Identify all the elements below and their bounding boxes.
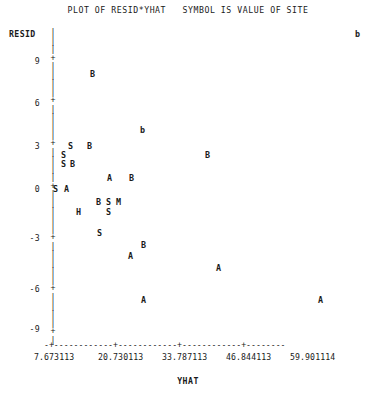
- data-point-symbol: S: [97, 229, 102, 237]
- data-point-symbol: M: [116, 198, 121, 206]
- x-axis-line: -+------------+------------+------------…: [44, 340, 362, 348]
- y-axis-label: RESID: [9, 29, 36, 39]
- x-axis-label: YHAT: [0, 376, 376, 386]
- data-point-symbol: A: [318, 296, 323, 304]
- data-point-symbol: S: [106, 208, 111, 216]
- y-axis-tick-label: 0: [14, 184, 40, 194]
- data-point-symbol: A: [107, 174, 112, 182]
- data-point-symbol: B: [70, 160, 75, 168]
- y-axis-tick-label: 3: [14, 141, 40, 151]
- sas-scatter-plot: PLOT OF RESID*YHAT SYMBOL IS VALUE OF SI…: [0, 0, 376, 396]
- y-axis-tick-label: -9: [14, 324, 40, 334]
- data-point-symbol: B: [90, 70, 95, 78]
- x-axis-tick-label: 20.730113: [98, 352, 143, 362]
- data-point-symbol: S: [106, 198, 111, 206]
- data-point-symbol: B: [141, 241, 146, 249]
- data-point-symbol: H: [76, 208, 81, 216]
- data-point-symbol: A: [64, 185, 69, 193]
- data-point-symbol: b: [140, 126, 145, 134]
- y-axis-tick-label: -3: [14, 233, 40, 243]
- data-point-symbol: B: [129, 174, 134, 182]
- x-axis-tick-label: 33.787113: [162, 352, 207, 362]
- x-axis-tick-label: 46.844113: [226, 352, 271, 362]
- data-point-symbol: A: [216, 264, 221, 272]
- data-point-symbol: S: [53, 185, 58, 193]
- plot-title: PLOT OF RESID*YHAT SYMBOL IS VALUE OF SI…: [0, 5, 376, 15]
- data-point-symbol: A: [128, 252, 133, 260]
- y-axis-tick-label: 6: [14, 98, 40, 108]
- data-point-symbol: S: [68, 142, 73, 150]
- data-point-symbol: A: [141, 296, 146, 304]
- x-axis-tick-label: 7.673113: [34, 352, 74, 362]
- data-point-symbol: B: [87, 142, 92, 150]
- y-axis-tick-label: -6: [14, 284, 40, 294]
- y-axis-tick-label: 9: [14, 56, 40, 66]
- x-axis-tick-label: 59.901114: [290, 352, 335, 362]
- data-point-symbol: B: [205, 151, 210, 159]
- data-point-symbol: b: [355, 30, 360, 38]
- data-point-symbol: B: [96, 198, 101, 206]
- data-point-symbol: S: [61, 160, 66, 168]
